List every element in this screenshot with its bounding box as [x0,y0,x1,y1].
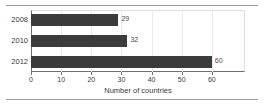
category-label-2008: 2008 [2,14,28,26]
bar-row[interactable]: 60 [31,56,245,68]
bar-row[interactable]: 29 [31,14,245,26]
bar-value-label-2010: 32 [130,34,138,46]
x-tick [31,72,32,75]
bar-value-label-2008: 29 [121,13,129,25]
bar-2010[interactable] [31,35,127,47]
x-tick [182,72,183,75]
bar-2008[interactable] [31,14,118,26]
x-tick-label: 20 [79,76,103,83]
x-tick [152,72,153,75]
x-tick-label: 10 [49,76,73,83]
x-tick-label: 30 [109,76,133,83]
bar-value-label-2012: 60 [215,55,223,67]
x-tick-label: 50 [170,76,194,83]
x-tick [212,72,213,75]
x-tick-label: 60 [200,76,224,83]
top-divider-rule [6,5,258,6]
x-tick-label: 40 [140,76,164,83]
category-label-2012: 2012 [2,56,28,68]
x-tick [61,72,62,75]
category-label-2010: 2010 [2,35,28,47]
x-tick [121,72,122,75]
x-axis-title: Number of countries [31,86,245,95]
bar-2012[interactable] [31,56,212,68]
x-tick [91,72,92,75]
bottom-divider-rule [6,99,258,100]
bar-row[interactable]: 32 [31,35,245,47]
chart-figure: 293260 200820102012 0102030405060 Number… [0,0,264,106]
x-tick-label: 0 [19,76,43,83]
